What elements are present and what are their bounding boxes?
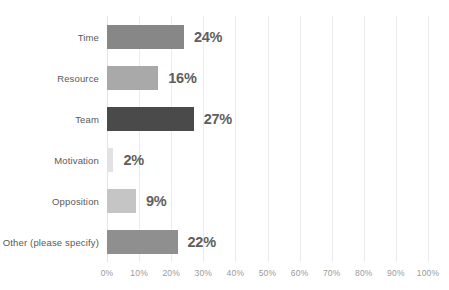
bar-track: 24%	[107, 25, 428, 49]
x-axis-tick-label: 30%	[194, 268, 212, 278]
bar[interactable]	[107, 230, 178, 254]
x-axis-tick-label: 40%	[227, 268, 245, 278]
bar[interactable]	[107, 189, 136, 213]
bar-chart: Time24%Resource16%Team27%Motivation2%Opp…	[0, 0, 449, 290]
x-axis-tick-label: 10%	[130, 268, 148, 278]
bar[interactable]	[107, 148, 113, 172]
x-axis-tick-label: 80%	[355, 268, 373, 278]
bar[interactable]	[107, 107, 194, 131]
category-label: Team	[75, 113, 99, 124]
x-axis-tick-label: 70%	[323, 268, 341, 278]
bar-track: 9%	[107, 189, 428, 213]
chart-title-remnant	[0, 0, 449, 4]
bar-track: 22%	[107, 230, 428, 254]
bar-value-label: 16%	[168, 70, 196, 86]
bar[interactable]	[107, 66, 158, 90]
category-label: Opposition	[52, 195, 99, 206]
x-axis-tick-label: 100%	[417, 268, 440, 278]
bar-value-label: 24%	[194, 29, 222, 45]
bar-track: 2%	[107, 148, 428, 172]
x-axis-tick-label: 60%	[291, 268, 309, 278]
bar[interactable]	[107, 25, 184, 49]
bar-value-label: 22%	[188, 234, 216, 250]
bar-row[interactable]: Time24%	[0, 16, 449, 57]
x-axis-tick-label: 50%	[259, 268, 277, 278]
category-label: Other (please specify)	[3, 236, 99, 247]
x-axis: 0%10%20%30%40%50%60%70%80%90%100%	[107, 268, 428, 284]
bar-row[interactable]: Other (please specify)22%	[0, 221, 449, 262]
bar-row[interactable]: Team27%	[0, 98, 449, 139]
bar-value-label: 27%	[204, 111, 232, 127]
x-axis-tick-label: 20%	[162, 268, 180, 278]
bar-track: 27%	[107, 107, 428, 131]
category-label: Time	[78, 31, 99, 42]
bar-rows-container: Time24%Resource16%Team27%Motivation2%Opp…	[0, 16, 449, 262]
bar-value-label: 9%	[146, 193, 166, 209]
bar-row[interactable]: Motivation2%	[0, 139, 449, 180]
bar-value-label: 2%	[123, 152, 143, 168]
bar-row[interactable]: Resource16%	[0, 57, 449, 98]
category-label: Resource	[57, 72, 99, 83]
x-axis-tick-label: 90%	[387, 268, 405, 278]
bar-row[interactable]: Opposition9%	[0, 180, 449, 221]
bar-track: 16%	[107, 66, 428, 90]
x-axis-tick-label: 0%	[101, 268, 114, 278]
category-label: Motivation	[54, 154, 99, 165]
